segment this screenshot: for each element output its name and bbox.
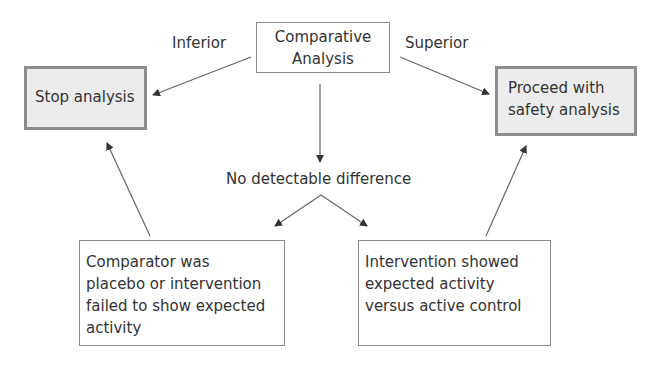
comparator-placebo-node: Comparator was placebo or intervention f… — [79, 240, 285, 346]
edge-label-inferior: Inferior — [172, 34, 226, 52]
node-text-line: activity — [86, 317, 284, 339]
node-text-line: Analysis — [257, 48, 389, 70]
arrow-superior — [400, 57, 489, 94]
comparative-analysis-node: Comparative Analysis — [256, 22, 390, 73]
node-text-line: Proceed with — [508, 77, 634, 99]
edge-label-superior: Superior — [405, 34, 468, 52]
node-text-line: safety analysis — [508, 99, 634, 121]
arrow-branch-right — [321, 195, 367, 226]
node-text-line: Intervention showed — [365, 251, 550, 273]
intervention-active-node: Intervention showed expected activity ve… — [358, 240, 551, 346]
node-text-line: placebo or intervention — [86, 273, 284, 295]
no-difference-label: No detectable difference — [226, 170, 411, 188]
arrow-branch-left — [275, 195, 321, 226]
node-text-line: expected activity — [365, 273, 550, 295]
node-text-line: Comparator was — [86, 251, 284, 273]
arrow-left-up — [107, 143, 150, 236]
proceed-safety-node: Proceed with safety analysis — [495, 66, 637, 136]
node-text-line: Stop analysis — [35, 86, 144, 108]
node-text-line: Comparative — [257, 26, 389, 48]
arrow-right-up — [486, 146, 526, 236]
stop-analysis-node: Stop analysis — [24, 66, 147, 130]
arrow-inferior — [153, 57, 251, 95]
node-text-line: versus active control — [365, 295, 550, 317]
node-text-line: failed to show expected — [86, 295, 284, 317]
